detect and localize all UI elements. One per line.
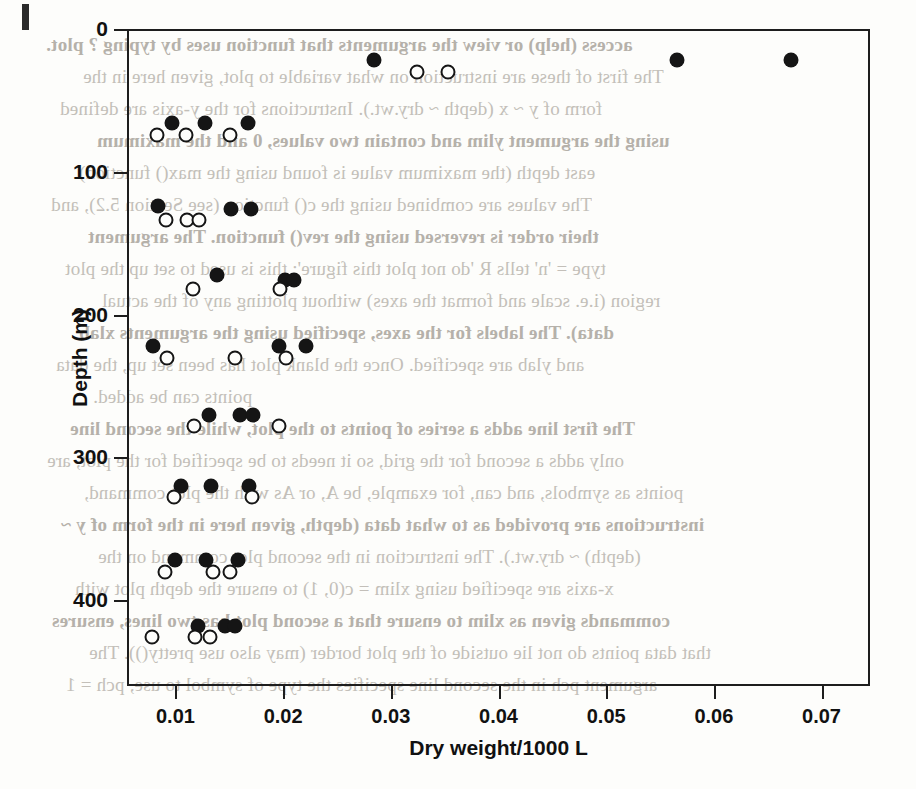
filled-circle-data-point xyxy=(168,553,183,568)
open-circle-data-point xyxy=(187,630,202,645)
x-axis-tick-label: 0.07 xyxy=(802,705,841,728)
x-axis-title: Dry weight/1000 L xyxy=(409,736,588,760)
y-axis-tick-label: 300 xyxy=(73,445,108,469)
x-axis-tick-label: 0.01 xyxy=(156,705,195,728)
x-axis-tick-label: 0.05 xyxy=(587,705,626,728)
y-axis-tick-label: 100 xyxy=(73,160,108,184)
x-axis-tick xyxy=(283,686,285,699)
x-axis-tick xyxy=(499,686,501,699)
filled-circle-data-point xyxy=(227,619,242,634)
y-axis-tick-label: 0 xyxy=(96,17,108,41)
open-circle-data-point xyxy=(167,490,182,505)
filled-circle-data-point xyxy=(366,53,381,68)
filled-circle-data-point xyxy=(784,53,799,68)
y-axis-title: Depth (m) xyxy=(68,309,92,407)
filled-circle-data-point xyxy=(243,201,258,216)
filled-circle-data-point xyxy=(203,479,218,494)
filled-circle-data-point xyxy=(165,116,180,131)
open-circle-data-point xyxy=(179,127,194,142)
filled-circle-data-point xyxy=(245,407,260,422)
open-circle-data-point xyxy=(227,350,242,365)
open-circle-data-point xyxy=(206,564,221,579)
x-axis-tick-label: 0.02 xyxy=(264,705,303,728)
y-axis-tick xyxy=(114,29,127,31)
y-axis-tick xyxy=(114,172,127,174)
open-circle-data-point xyxy=(272,281,287,296)
page-edge-marker xyxy=(22,4,29,30)
open-circle-data-point xyxy=(159,350,174,365)
x-axis-tick-label: 0.03 xyxy=(371,705,410,728)
open-circle-data-point xyxy=(244,490,259,505)
scatter-plot: 0100200300400 0.010.020.030.040.050.060.… xyxy=(127,29,870,686)
filled-circle-data-point xyxy=(145,339,160,354)
open-circle-data-point xyxy=(409,64,424,79)
x-axis-tick xyxy=(822,686,824,699)
open-circle-data-point xyxy=(186,419,201,434)
open-circle-data-point xyxy=(157,564,172,579)
filled-circle-data-point xyxy=(210,267,225,282)
filled-circle-data-point xyxy=(286,273,301,288)
x-axis-tick xyxy=(391,686,393,699)
scanned-page: access (help) or view the arguments that… xyxy=(0,0,916,789)
open-circle-data-point xyxy=(150,127,165,142)
filled-circle-data-point xyxy=(240,116,255,131)
open-circle-data-point xyxy=(192,213,207,228)
open-circle-data-point xyxy=(223,564,238,579)
y-axis-tick xyxy=(114,600,127,602)
filled-circle-data-point xyxy=(201,407,216,422)
open-circle-data-point xyxy=(202,630,217,645)
filled-circle-data-point xyxy=(670,53,685,68)
filled-circle-data-point xyxy=(197,116,212,131)
open-circle-data-point xyxy=(144,630,159,645)
x-axis-tick-label: 0.04 xyxy=(479,705,518,728)
x-axis-tick xyxy=(714,686,716,699)
open-circle-data-point xyxy=(271,419,286,434)
filled-circle-data-point xyxy=(151,199,166,214)
x-axis-tick-label: 0.06 xyxy=(694,705,733,728)
filled-circle-data-point xyxy=(298,339,313,354)
open-circle-data-point xyxy=(185,281,200,296)
x-axis-tick xyxy=(175,686,177,699)
x-axis-tick xyxy=(606,686,608,699)
open-circle-data-point xyxy=(223,127,238,142)
y-axis-tick xyxy=(114,315,127,317)
open-circle-data-point xyxy=(440,64,455,79)
y-axis-tick-label: 400 xyxy=(73,588,108,612)
filled-circle-data-point xyxy=(224,201,239,216)
open-circle-data-point xyxy=(158,213,173,228)
open-circle-data-point xyxy=(279,350,294,365)
y-axis-tick xyxy=(114,457,127,459)
